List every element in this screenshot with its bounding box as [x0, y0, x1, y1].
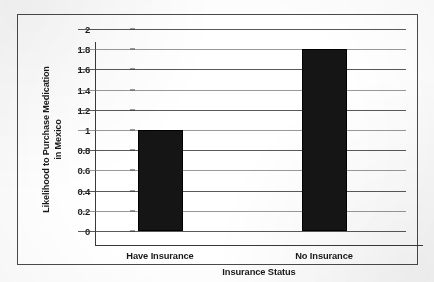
gridline	[78, 69, 406, 70]
gridline	[78, 29, 406, 30]
gridline	[78, 130, 406, 131]
gridline	[78, 170, 406, 171]
gridline	[78, 231, 406, 232]
gridline	[78, 49, 406, 50]
category-label: Have Insurance	[78, 251, 242, 261]
gridline	[78, 150, 406, 151]
gridline	[78, 211, 406, 212]
category-label: No Insurance	[242, 251, 406, 261]
bar-no-insurance	[302, 49, 347, 231]
bar-have-insurance	[138, 130, 183, 231]
x-axis-title: Insurance Status	[95, 267, 423, 277]
bar-chart-figure: Likelihood to Purchase Medication in Mex…	[0, 0, 434, 282]
plot-area	[78, 29, 406, 231]
gridline	[78, 191, 406, 192]
gridline	[78, 90, 406, 91]
gridline	[78, 110, 406, 111]
chart-frame: Likelihood to Purchase Medication in Mex…	[17, 14, 418, 265]
y-axis-title-line-1: Likelihood to Purchase Medication	[41, 66, 51, 213]
x-axis-line	[95, 245, 423, 246]
